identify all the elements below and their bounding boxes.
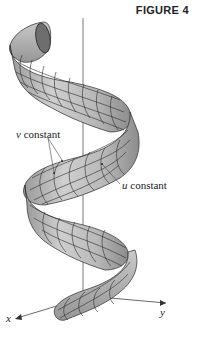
v-constant-label: v constant bbox=[16, 128, 60, 140]
x-axis-label: x bbox=[6, 312, 11, 324]
y-axis bbox=[110, 298, 166, 303]
x-axis bbox=[17, 305, 60, 318]
u-constant-label: u constant bbox=[122, 179, 167, 191]
helix-tube-diagram bbox=[0, 0, 197, 340]
y-axis-label: y bbox=[160, 306, 165, 318]
helix-tube bbox=[9, 22, 139, 320]
